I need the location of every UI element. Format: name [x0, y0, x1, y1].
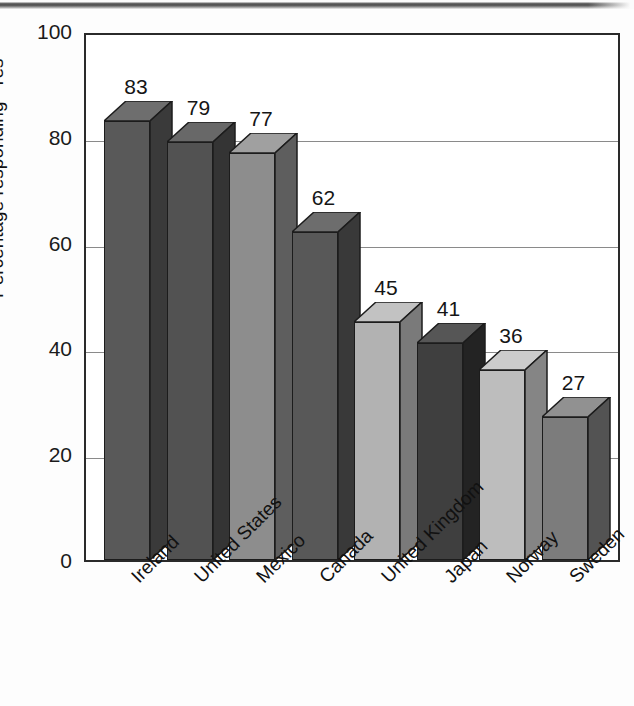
bar[interactable]: [229, 133, 297, 560]
y-axis-tick-label: 100: [0, 20, 72, 44]
bar-front-face: [104, 121, 150, 560]
bar[interactable]: [104, 101, 172, 560]
bar-value-label: 41: [426, 297, 472, 321]
bar[interactable]: [292, 212, 360, 560]
bar-value-label: 83: [113, 75, 159, 99]
y-axis-tick-label: 80: [0, 126, 72, 150]
bar-value-label: 77: [238, 107, 284, 131]
bar-value-label: 79: [176, 96, 222, 120]
bar[interactable]: [479, 350, 547, 560]
y-axis-tick-label: 40: [0, 337, 72, 361]
y-axis-tick-label: 0: [0, 549, 72, 573]
bar-front-face: [292, 232, 338, 560]
bar-front-face: [167, 142, 213, 560]
y-axis-tick-label: 20: [0, 443, 72, 467]
bar-value-label: 45: [363, 276, 409, 300]
bar-front-face: [479, 370, 525, 560]
scan-artifact-band: [0, 0, 634, 9]
bar-value-label: 62: [301, 186, 347, 210]
plot-area: [84, 33, 620, 562]
bar-value-label: 36: [488, 324, 534, 348]
bar[interactable]: [167, 122, 235, 560]
y-axis-tick-label: 60: [0, 232, 72, 256]
bar[interactable]: [354, 302, 422, 560]
chart-page: Percentage responding "Yes" 020406080100…: [0, 0, 634, 706]
bar-value-label: 27: [551, 371, 597, 395]
